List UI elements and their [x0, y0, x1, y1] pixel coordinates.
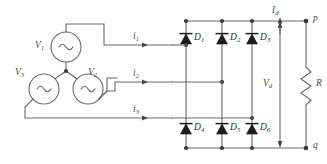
label-voltage-vd: Vd	[263, 79, 272, 89]
diode-d6-body	[247, 124, 258, 134]
label-source-v1: V1	[35, 41, 44, 51]
label-source-v3: V3	[15, 68, 24, 78]
node-rail-bottom-c2	[220, 146, 224, 150]
wire-phase1	[66, 24, 172, 45]
diode-d5-body	[217, 124, 228, 134]
circuit-diagram: V1 V3 V2 i1 i2 i3 D1 D2 D3 D4 D5 D6 Id V…	[0, 0, 327, 164]
terminal-node-q	[304, 146, 309, 151]
node-rail-top-c1	[184, 19, 188, 23]
current-arrow-i3	[142, 116, 148, 121]
node-rail-top-c3	[250, 19, 254, 23]
circuit-schematic-canvas	[0, 0, 327, 164]
label-diode-d4: D4	[194, 123, 204, 133]
diode-d4-body	[181, 124, 192, 134]
node-rail-bottom-c1	[184, 146, 188, 150]
label-source-v2: V2	[88, 68, 97, 78]
label-diode-d3: D3	[260, 33, 270, 43]
label-current-i3: i3	[133, 105, 139, 115]
label-diode-d2: D2	[230, 33, 240, 43]
node-rail-top-c2	[220, 19, 224, 23]
diode-d2-body	[217, 34, 228, 44]
label-resistor-r: R	[316, 79, 322, 89]
label-current-i2: i2	[133, 69, 139, 79]
resistor-r-body	[301, 67, 311, 105]
current-arrow-i2	[142, 80, 148, 85]
neutral-node	[64, 69, 68, 73]
label-current-id: Id	[272, 6, 279, 16]
label-terminal-q: q	[313, 141, 318, 151]
diode-d1-body	[181, 34, 192, 44]
label-terminal-p: p	[313, 14, 318, 24]
vd-arrow-head-bottom	[278, 141, 283, 148]
label-diode-d1: D1	[194, 33, 204, 43]
wire-phase2	[107, 82, 172, 91]
current-arrow-i1	[142, 43, 148, 48]
label-diode-d5: D5	[230, 123, 240, 133]
diode-d3-body	[247, 34, 258, 44]
terminal-node-p	[304, 19, 309, 24]
node-rail-bottom-c3	[250, 146, 254, 150]
label-diode-d6: D6	[260, 123, 270, 133]
label-current-i1: i1	[133, 32, 139, 42]
